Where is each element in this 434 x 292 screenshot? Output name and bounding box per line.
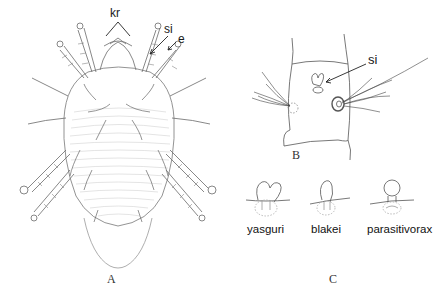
label-kr: kr bbox=[110, 6, 120, 20]
label-e: e bbox=[178, 32, 185, 46]
leg-segment-illustration bbox=[240, 0, 434, 170]
solenidia-comparison-illustration bbox=[240, 170, 434, 250]
solenidion-parasitivorax bbox=[370, 180, 414, 214]
solenidion-blakei bbox=[310, 181, 350, 215]
panel-c: yasguri blakei parasitivorax C bbox=[240, 170, 434, 292]
label-si-b: si bbox=[368, 52, 377, 67]
panel-a: kr si e A bbox=[0, 0, 240, 292]
panel-label-c: C bbox=[329, 272, 337, 287]
solenidion-yasguri bbox=[246, 182, 290, 216]
species-label-parasitivorax: parasitivorax bbox=[367, 223, 432, 235]
panel-b: si B bbox=[240, 0, 434, 170]
species-label-yasguri: yasguri bbox=[247, 223, 284, 235]
label-si-a: si bbox=[164, 22, 173, 36]
species-label-blakei: blakei bbox=[311, 223, 341, 235]
panel-label-a: A bbox=[107, 272, 116, 287]
mite-dorsal-illustration bbox=[0, 0, 240, 292]
panel-label-b: B bbox=[292, 148, 300, 163]
